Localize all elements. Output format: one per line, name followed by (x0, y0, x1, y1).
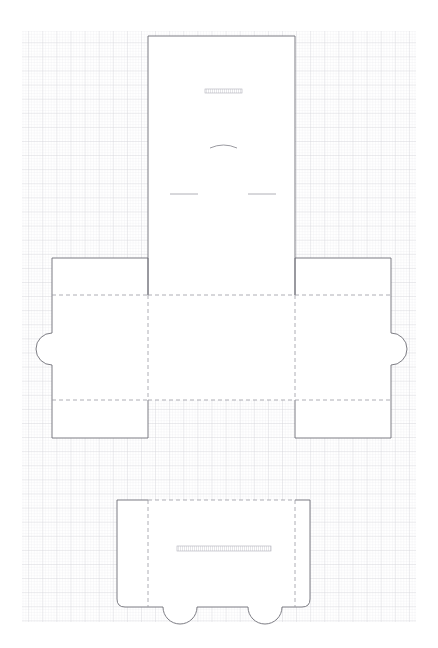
top-panel-hatch-slot (205, 89, 242, 93)
right-flap-fill (295, 258, 391, 438)
dieline-canvas (0, 0, 438, 648)
bottom-panel-fill (117, 500, 310, 607)
bottom-panel-hatch-slot (177, 546, 271, 551)
left-flap-fill (52, 258, 148, 438)
top-panel-fill (148, 36, 295, 295)
dieline-drawing (0, 0, 438, 648)
center-panel-fill (148, 295, 295, 400)
